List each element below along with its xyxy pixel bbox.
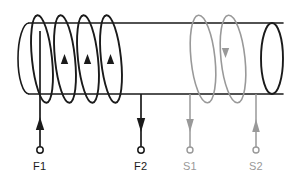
- field-current-arrow-2: [84, 54, 91, 64]
- terminal-lead-f2: [137, 94, 145, 153]
- field-coil-turn-1: [27, 14, 56, 104]
- field-current-arrow-1: [61, 54, 68, 64]
- sense-current-arrow-1: [222, 48, 229, 58]
- cylinder-left-cap: [18, 23, 29, 94]
- core-cylinder: [18, 23, 283, 94]
- terminal-label-f1: F1: [33, 160, 46, 172]
- sense-coil-current-arrows: [222, 48, 229, 58]
- field-coil-current-arrows: [61, 54, 114, 64]
- sense-coil-turn-2: [216, 14, 249, 104]
- s1-direction-arrow-down: [186, 119, 194, 132]
- diagram-canvas: F1 F2 S1 S2: [0, 0, 302, 177]
- sense-coil: [186, 14, 249, 104]
- solenoid-diagram: F1 F2 S1 S2: [0, 0, 302, 177]
- s2-terminal-node[interactable]: [253, 147, 259, 153]
- f2-terminal-node[interactable]: [138, 147, 144, 153]
- sense-coil-turn-1: [186, 14, 219, 104]
- terminal-label-s1: S1: [183, 160, 197, 172]
- f1-terminal-node[interactable]: [37, 147, 43, 153]
- s2-direction-arrow-up: [252, 119, 260, 132]
- field-current-arrow-3: [107, 54, 114, 64]
- terminal-lead-s1: [186, 94, 194, 153]
- cylinder-right-cap: [261, 23, 283, 94]
- terminal-lead-f1: [36, 31, 44, 153]
- s1-terminal-node[interactable]: [187, 147, 193, 153]
- f1-direction-arrow-up: [36, 117, 44, 130]
- f2-direction-arrow-down: [137, 118, 145, 132]
- terminal-lead-s2: [252, 94, 260, 153]
- terminal-label-s2: S2: [249, 160, 263, 172]
- terminal-label-f2: F2: [134, 160, 147, 172]
